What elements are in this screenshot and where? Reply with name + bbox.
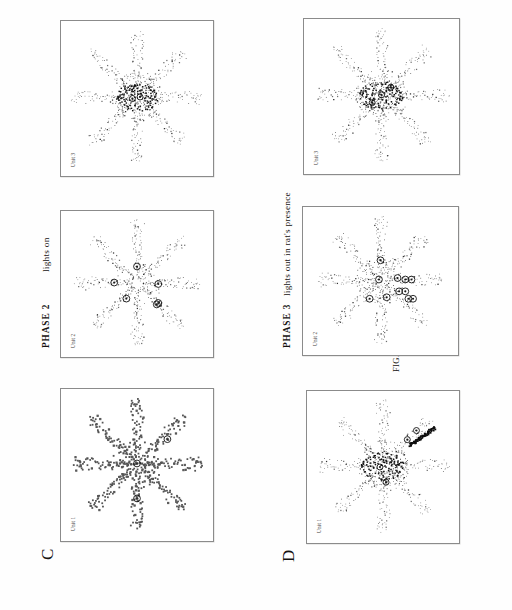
- path-dot: [131, 282, 132, 283]
- path-dot: [447, 467, 448, 468]
- path-dot: [385, 410, 386, 411]
- path-dot: [370, 448, 371, 449]
- path-dot: [386, 48, 387, 49]
- path-dot: [426, 281, 427, 282]
- path-dot: [168, 466, 169, 467]
- path-dot: [387, 103, 388, 104]
- spike-ink: [372, 86, 374, 87]
- path-dot: [389, 80, 390, 81]
- path-dot: [410, 497, 411, 498]
- path-dot: [134, 220, 135, 221]
- path-dot: [381, 76, 382, 77]
- path-dot: [389, 472, 390, 473]
- spike-ink: [147, 96, 149, 97]
- path-dot: [438, 466, 439, 467]
- path-dot: [178, 501, 179, 502]
- path-dot: [387, 280, 388, 281]
- path-dot: [350, 311, 351, 312]
- path-dot: [123, 96, 124, 97]
- path-dot: [144, 81, 145, 82]
- path-dot: [333, 281, 334, 282]
- spike-ink: [366, 102, 368, 103]
- path-dot: [166, 487, 167, 488]
- path-dot: [378, 267, 379, 268]
- path-dot: [362, 271, 363, 272]
- path-dot: [137, 298, 138, 299]
- path-dot: [423, 424, 424, 425]
- path-dot: [384, 491, 385, 492]
- path-dot: [120, 300, 121, 301]
- path-dot: [180, 144, 181, 145]
- path-dot: [94, 280, 95, 281]
- spike-ink: [155, 99, 157, 100]
- path-dot: [388, 476, 389, 477]
- path-dot: [388, 100, 389, 101]
- path-dot: [385, 59, 386, 60]
- path-dot: [404, 470, 405, 471]
- path-dot: [134, 126, 135, 127]
- path-dot: [333, 242, 334, 243]
- path-dot: [160, 77, 161, 78]
- path-dot: [380, 480, 381, 481]
- path-dot: [97, 499, 98, 500]
- path-dot: [142, 422, 143, 423]
- panel-d-unit-1[interactable]: Unit 1: [306, 390, 460, 544]
- panel-c-unit-1[interactable]: Unit 1: [60, 388, 214, 542]
- path-dot: [336, 138, 337, 139]
- path-dot: [392, 451, 393, 452]
- path-dot: [191, 93, 192, 94]
- path-dot: [374, 80, 375, 81]
- path-dot: [194, 95, 195, 96]
- path-dot: [91, 506, 92, 507]
- path-dot: [114, 462, 115, 463]
- path-dot: [135, 107, 136, 108]
- path-dot: [380, 156, 381, 157]
- path-dot: [196, 283, 197, 284]
- path-dot: [383, 228, 384, 229]
- path-dot: [381, 222, 382, 223]
- path-dot: [120, 279, 121, 280]
- path-dot: [341, 316, 342, 317]
- panel-d-unit-3[interactable]: Unit 3: [303, 18, 460, 175]
- panel-c-unit-3[interactable]: Unit 3: [60, 20, 214, 177]
- path-dot: [156, 117, 157, 118]
- path-dot: [191, 282, 192, 283]
- path-dot: [381, 285, 382, 286]
- path-dot: [134, 233, 135, 234]
- path-dot: [164, 463, 165, 464]
- path-dot: [410, 465, 411, 466]
- path-dot: [134, 112, 135, 113]
- path-dot: [341, 284, 342, 285]
- path-dot: [328, 279, 329, 280]
- panel-d-unit-2[interactable]: Unit 2: [302, 206, 459, 356]
- path-dot: [397, 295, 398, 296]
- path-dot: [152, 301, 153, 302]
- path-dot: [407, 493, 408, 494]
- path-dot: [131, 287, 132, 288]
- path-dot: [164, 128, 165, 129]
- path-dot: [397, 452, 398, 453]
- path-dot: [396, 279, 397, 280]
- panel-c-unit-2[interactable]: Unit 2: [60, 210, 214, 358]
- path-dot: [94, 504, 95, 505]
- path-dot: [136, 83, 137, 84]
- path-dot: [385, 136, 386, 137]
- path-dot: [386, 267, 387, 268]
- path-dot: [163, 309, 164, 310]
- path-dot: [101, 101, 102, 102]
- path-dot: [366, 449, 367, 450]
- path-dot: [356, 250, 357, 251]
- path-dot: [103, 309, 104, 310]
- path-dot: [384, 312, 385, 313]
- path-dot: [365, 448, 366, 449]
- path-dot: [378, 264, 379, 265]
- path-dot: [377, 100, 378, 101]
- path-dot: [415, 308, 416, 309]
- path-dot: [421, 284, 422, 285]
- path-dot: [377, 254, 378, 255]
- path-dot: [92, 240, 93, 241]
- path-dot: [348, 55, 349, 56]
- spike-marker-core: [404, 278, 406, 280]
- path-dot: [373, 284, 374, 285]
- path-dot: [160, 97, 161, 98]
